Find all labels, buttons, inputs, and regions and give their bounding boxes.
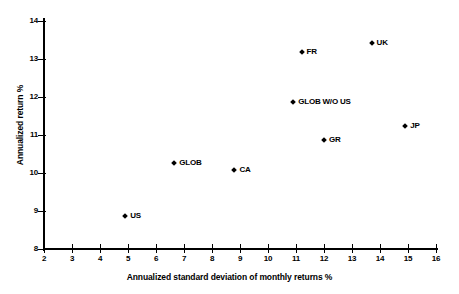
data-point-marker: [299, 50, 305, 56]
x-tick-mark: [72, 244, 73, 253]
x-tick-label: 4: [92, 255, 108, 263]
x-tick-label: 9: [232, 255, 248, 263]
x-tick-mark: [128, 244, 129, 253]
y-tick-mark: [38, 211, 46, 212]
x-tick-mark: [268, 244, 269, 253]
data-point-marker: [402, 124, 408, 130]
x-tick-mark: [44, 244, 45, 253]
x-tick-mark: [240, 244, 241, 253]
data-point: US: [123, 206, 141, 224]
data-point-label: FR: [307, 48, 317, 56]
y-tick-mark: [38, 173, 46, 174]
x-tick-label: 3: [64, 255, 80, 263]
x-tick-label: 10: [260, 255, 276, 263]
data-point: UK: [370, 33, 388, 51]
data-point-label: GR: [329, 136, 341, 144]
data-point-marker: [232, 167, 238, 173]
data-point-label: JP: [410, 122, 419, 130]
data-point-marker: [369, 40, 375, 46]
y-tick-label: 14: [22, 17, 38, 25]
x-tick-mark: [100, 244, 101, 253]
data-point-marker: [171, 160, 177, 166]
x-tick-label: 2: [36, 255, 52, 263]
data-point-label: UK: [377, 39, 388, 47]
data-point: CA: [232, 160, 250, 178]
y-tick-label: 9: [22, 207, 38, 215]
y-axis-title: Annualized return %: [15, 45, 25, 205]
x-tick-label: 14: [372, 255, 388, 263]
x-tick-label: 11: [288, 255, 304, 263]
data-point-label: GLOB W/O US: [298, 98, 350, 106]
x-tick-label: 8: [204, 255, 220, 263]
x-tick-label: 15: [400, 255, 416, 263]
scatter-chart: 891011121314 2345678910111213141516 USGL…: [0, 0, 459, 294]
y-tick-label: 8: [22, 245, 38, 253]
data-point-label: GLOB: [179, 159, 201, 167]
data-point: FR: [300, 43, 317, 61]
data-point-label: US: [130, 212, 141, 220]
y-tick-mark: [38, 59, 46, 60]
data-point: GLOB W/O US: [291, 92, 350, 110]
data-point-marker: [122, 213, 128, 219]
x-tick-mark: [296, 244, 297, 253]
x-axis-title: Annualized standard deviation of monthly…: [0, 272, 459, 282]
x-tick-label: 16: [428, 255, 444, 263]
x-tick-mark: [156, 244, 157, 253]
x-tick-mark: [408, 244, 409, 253]
x-tick-mark: [324, 244, 325, 253]
x-tick-mark: [184, 244, 185, 253]
x-tick-label: 7: [176, 255, 192, 263]
y-tick-mark: [38, 21, 46, 22]
x-tick-mark: [352, 244, 353, 253]
y-tick-mark: [38, 97, 46, 98]
data-point-label: CA: [239, 166, 250, 174]
x-tick-label: 5: [120, 255, 136, 263]
x-tick-mark: [436, 244, 437, 253]
x-tick-mark: [212, 244, 213, 253]
x-tick-label: 6: [148, 255, 164, 263]
x-tick-label: 13: [344, 255, 360, 263]
data-point-marker: [321, 137, 327, 143]
data-point: GR: [322, 130, 341, 148]
x-tick-mark: [380, 244, 381, 253]
data-point: GLOB: [172, 153, 201, 171]
y-tick-mark: [38, 135, 46, 136]
data-point-marker: [290, 99, 296, 105]
data-point: JP: [403, 117, 419, 135]
x-tick-label: 12: [316, 255, 332, 263]
